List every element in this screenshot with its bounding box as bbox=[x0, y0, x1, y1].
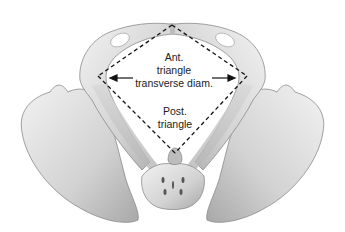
transverse-diameter-label: transverse diam. bbox=[135, 77, 213, 89]
ant-triangle-label-line1: Ant. bbox=[165, 51, 184, 63]
ant-triangle-label-line2: triangle bbox=[157, 64, 191, 76]
left-ilium bbox=[21, 85, 138, 222]
right-ilium bbox=[207, 85, 324, 222]
post-triangle-label-line2: triangle bbox=[158, 118, 192, 130]
coccyx-tip bbox=[168, 148, 182, 165]
post-triangle-label-line1: Post. bbox=[163, 105, 187, 117]
pelvis-diagram: Ant. triangle transverse diam. Post. tri… bbox=[0, 0, 345, 232]
